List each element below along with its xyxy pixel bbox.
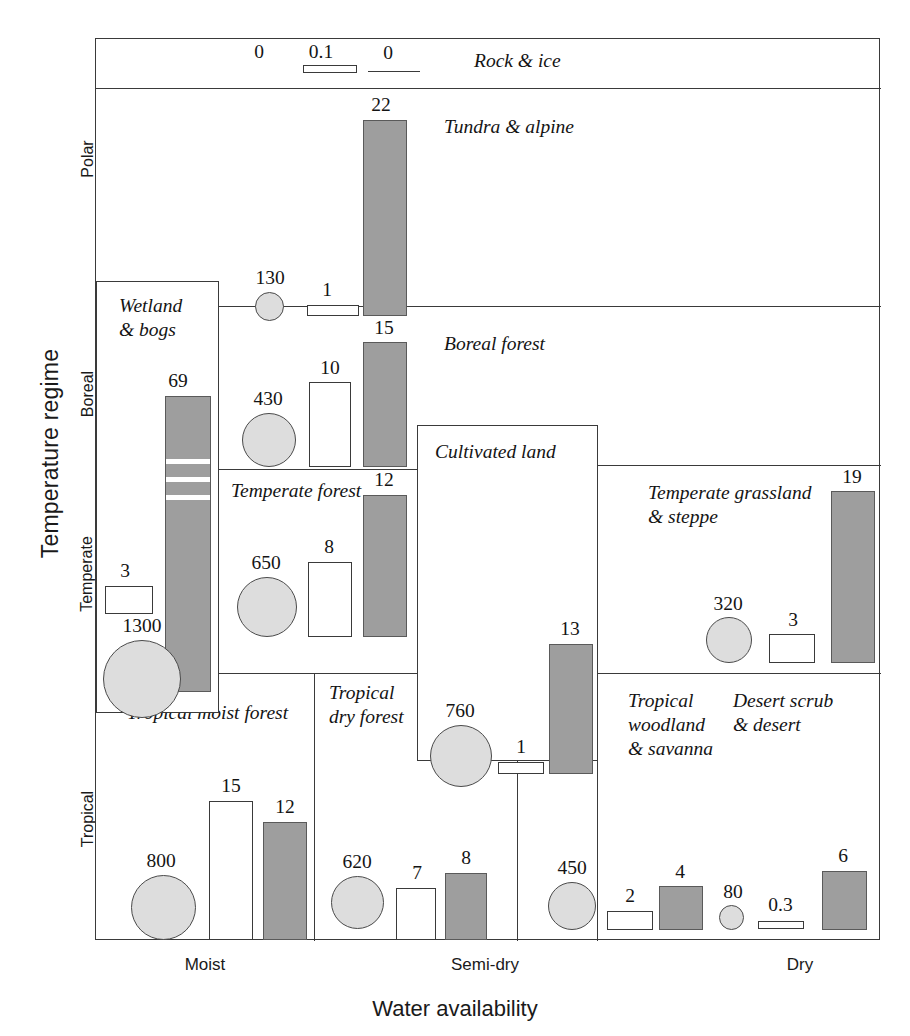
value-cultivated-fill-bar: 13 (545, 618, 595, 640)
bar-tropical-dry-forest-open (396, 888, 436, 940)
bar-rock-filled (368, 71, 420, 72)
value-savanna-fill-bar: 4 (655, 861, 705, 883)
bar-savanna-open (607, 911, 653, 930)
rule-temperate-tropical-right (597, 673, 881, 674)
value-rock-fill-bar: 0 (368, 42, 408, 64)
value-tundra-open-bar: 1 (302, 279, 352, 301)
x-axis-title: Water availability (0, 996, 910, 1022)
bar-break-stripe (166, 459, 210, 464)
circle-tropical-dry-forest (331, 876, 384, 929)
bar-desert-filled (822, 871, 867, 930)
value-cultivated-open-bar: 1 (496, 736, 546, 758)
circle-desert (719, 905, 744, 930)
value-tdf-open-bar: 7 (392, 862, 442, 884)
y-tick-temperate: Temperate (78, 509, 96, 639)
bar-tundra-open (307, 305, 359, 316)
value-tempforest-open-bar: 8 (304, 536, 354, 558)
value-grassland-open-bar: 3 (768, 609, 818, 631)
value-desert-circle: 80 (708, 881, 758, 903)
value-tempforest-fill-bar: 12 (354, 469, 414, 491)
circle-boreal (242, 413, 296, 467)
bar-desert-open (758, 921, 804, 929)
cell-label-temperate-grassland: Temperate grassland & steppe (648, 481, 811, 529)
value-tdf-circle: 620 (322, 851, 392, 873)
bar-temperate-forest-open (308, 562, 352, 637)
value-savanna-circle: 450 (537, 857, 607, 879)
value-rock-circle: 0 (239, 41, 279, 63)
cell-label-wetland-bogs: Wetland & bogs (119, 294, 182, 342)
value-cultivated-circle: 760 (425, 700, 495, 722)
bar-boreal-open (309, 382, 351, 467)
value-tmf-fill-bar: 12 (255, 796, 315, 818)
bar-tropical-dry-forest-filled (445, 873, 487, 940)
value-boreal-fill-bar: 15 (354, 317, 414, 339)
bar-cultivated-filled (549, 644, 593, 774)
rule-semidry-inner (517, 761, 518, 941)
value-rock-open-bar: 0.1 (296, 41, 346, 63)
value-tdf-fill-bar: 8 (441, 847, 491, 869)
cell-label-desert-scrub: Desert scrub & desert (733, 689, 833, 737)
value-wetland-open-bar: 3 (105, 560, 145, 582)
plot-frame: Rock & ice Tundra & alpine Boreal forest… (95, 38, 880, 940)
bar-tropical-moist-forest-filled (263, 822, 307, 940)
bar-grassland-filled (831, 491, 875, 663)
circle-temperate-forest (237, 577, 297, 637)
circle-cultivated (430, 725, 492, 787)
rule-rock-ice-bottom (96, 88, 881, 89)
cell-label-rock-ice: Rock & ice (474, 49, 561, 73)
x-tick-semidry: Semi-dry (420, 955, 550, 975)
y-axis-title: Temperature regime (37, 254, 64, 654)
value-desert-open-bar: 0.3 (753, 894, 808, 916)
rule-temperate-tropical-left (219, 673, 417, 674)
circle-savanna (548, 882, 596, 930)
bar-tropical-moist-forest-open (209, 801, 253, 940)
bar-rock-open (303, 65, 357, 73)
value-grassland-fill-bar: 19 (822, 466, 882, 488)
value-grassland-circle: 320 (693, 593, 763, 615)
bar-boreal-filled (363, 342, 407, 467)
bar-break-stripe (166, 495, 210, 500)
circle-tundra (255, 292, 284, 321)
bar-tundra-filled (363, 120, 407, 316)
value-tmf-open-bar: 15 (201, 775, 261, 797)
value-tmf-circle: 800 (126, 850, 196, 872)
value-tempforest-circle: 650 (231, 552, 301, 574)
bar-wetland-open (105, 586, 153, 614)
value-savanna-open-bar: 2 (605, 885, 655, 907)
value-wetland-fill-bar: 69 (153, 370, 203, 392)
value-boreal-circle: 430 (233, 388, 303, 410)
value-boreal-open-bar: 10 (305, 357, 355, 379)
cell-label-tundra-alpine: Tundra & alpine (444, 115, 574, 139)
bar-cultivated-open (498, 762, 544, 774)
bar-grassland-open (769, 634, 815, 663)
cell-label-tropical-dry-forest: Tropical dry forest (329, 681, 404, 729)
cell-label-cultivated-land: Cultivated land (435, 440, 556, 464)
circle-grassland (706, 617, 752, 663)
cell-label-tropical-woodland: Tropical woodland & savanna (628, 689, 713, 760)
cell-label-boreal-forest: Boreal forest (444, 332, 545, 356)
biome-matrix-figure: Temperature regime Water availability Po… (0, 0, 910, 1036)
value-wetland-circle: 1300 (102, 615, 182, 637)
bar-savanna-filled (659, 886, 703, 930)
value-desert-fill-bar: 6 (818, 845, 868, 867)
circle-tropical-moist-forest (131, 875, 196, 940)
value-tundra-circle: 130 (240, 267, 300, 289)
bar-wetland-filled (165, 396, 211, 692)
bar-break-stripe (166, 477, 210, 482)
inset-box-cultivated-land: Cultivated land 760 1 13 (417, 425, 598, 761)
cell-label-temperate-forest: Temperate forest (231, 479, 361, 503)
x-tick-moist: Moist (150, 955, 260, 975)
inset-box-wetland-bogs: Wetland & bogs 69 3 1300 (96, 281, 219, 713)
x-tick-dry: Dry (755, 955, 845, 975)
circle-wetland (103, 640, 181, 718)
value-tundra-fill-bar: 22 (351, 94, 411, 116)
bar-temperate-forest-filled (363, 495, 407, 637)
